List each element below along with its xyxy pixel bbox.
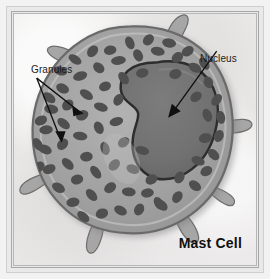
frame-inner-border: Granules Nucleus Mast Cell — [13, 13, 257, 266]
label-nucleus: Nucleus — [200, 53, 237, 64]
mast-cell-figure: Granules Nucleus Mast Cell — [0, 0, 270, 279]
label-granules: Granules — [31, 64, 72, 75]
figure-title: Mast Cell — [179, 235, 242, 251]
figure-plate: Granules Nucleus Mast Cell — [6, 6, 264, 273]
mast-cell-illustration — [14, 14, 256, 265]
